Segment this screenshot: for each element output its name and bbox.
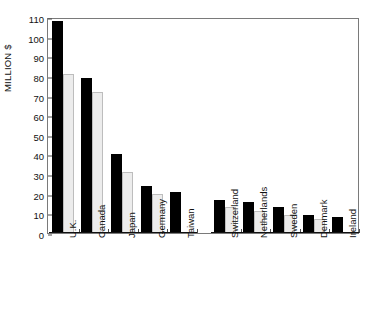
x-axis-label: Switzerland	[229, 189, 240, 238]
plot-area: 0102030405060708090100110	[47, 18, 359, 234]
y-tick-label: 60	[33, 112, 44, 123]
bar-group	[166, 19, 196, 233]
y-tick-label: 0	[39, 230, 44, 241]
x-axis-label: Netherlands	[258, 187, 269, 238]
y-tick-label: 110	[29, 14, 44, 25]
x-tick-mark	[197, 229, 198, 233]
x-axis-label: Denmark	[318, 199, 329, 238]
x-axis-label: U.K.	[67, 220, 78, 238]
y-tick-label: 30	[33, 171, 44, 182]
bar-sweden-1997	[273, 207, 284, 233]
bar-ireland-1997	[332, 217, 343, 233]
bar-group	[78, 19, 108, 233]
bar-uk-1996	[63, 74, 74, 233]
y-tick-label: 10	[33, 210, 44, 221]
bar-group	[107, 19, 137, 233]
bar-taiwan-1997	[170, 192, 181, 233]
bar-japan-1997	[111, 154, 122, 233]
y-tick-label: 80	[33, 72, 44, 83]
y-tick-mark	[48, 235, 52, 236]
x-tick-mark	[359, 229, 360, 233]
bar-chart: MILLION $ 1997 1996 01020304050607080901…	[0, 0, 382, 314]
x-axis-label: Germany	[156, 199, 167, 238]
bar-series-container	[48, 19, 358, 233]
y-tick-label: 70	[33, 92, 44, 103]
bar-group	[269, 19, 299, 233]
x-axis-labels: U.K.CanadaJapanGermanyTaiwanSwitzerlandN…	[47, 238, 359, 312]
x-axis-label: Japan	[126, 212, 137, 238]
bar-canada-1997	[81, 78, 92, 233]
x-axis-label: Canada	[96, 205, 107, 238]
y-tick-label: 40	[33, 151, 44, 162]
y-tick-label: 90	[33, 53, 44, 64]
y-tick-label: 50	[33, 131, 44, 142]
bar-switzerland-1997	[214, 200, 225, 233]
bar-group	[328, 19, 358, 233]
bar-germany-1997	[141, 186, 152, 233]
bar-denmark-1997	[303, 215, 314, 233]
y-axis-title: MILLION $	[2, 0, 13, 92]
x-axis-label: Ireland	[347, 209, 358, 238]
axis-gap	[196, 19, 210, 233]
bar-uk-1997	[52, 21, 63, 233]
y-tick-label: 100	[28, 33, 44, 44]
x-axis-label: Sweden	[288, 204, 299, 238]
x-axis-label: Taiwan	[185, 208, 196, 238]
bar-group	[48, 19, 78, 233]
y-tick-label: 20	[33, 190, 44, 201]
bar-netherlands-1997	[243, 202, 254, 233]
